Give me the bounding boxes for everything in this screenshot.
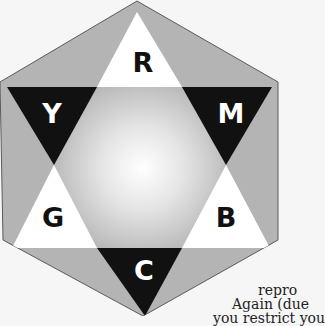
label-bottom-c: C — [134, 255, 154, 286]
label-upper-right-m: M — [218, 98, 245, 129]
label-lower-left-g: G — [42, 202, 64, 233]
label-upper-left-y: Y — [41, 98, 62, 129]
label-top-r: R — [133, 47, 154, 78]
text-fragment-3: you restrict you — [213, 310, 325, 326]
label-lower-right-b: B — [216, 202, 237, 233]
